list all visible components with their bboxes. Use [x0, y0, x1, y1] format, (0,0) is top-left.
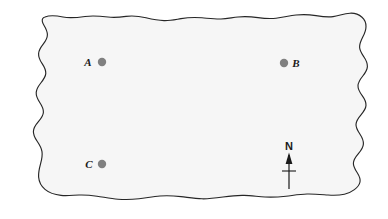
sketch-map-figure: A B C N [0, 0, 388, 219]
point-dot-icon [98, 160, 106, 168]
compass-north-label: N [285, 140, 293, 152]
point-label-a: A [83, 56, 91, 68]
point-dot-icon [280, 59, 288, 67]
point-label-b: B [291, 57, 299, 69]
land-boundary-shape [33, 13, 367, 199]
point-dot-icon [98, 58, 106, 66]
map-canvas: A B C N [0, 0, 388, 219]
point-label-c: C [85, 158, 93, 170]
